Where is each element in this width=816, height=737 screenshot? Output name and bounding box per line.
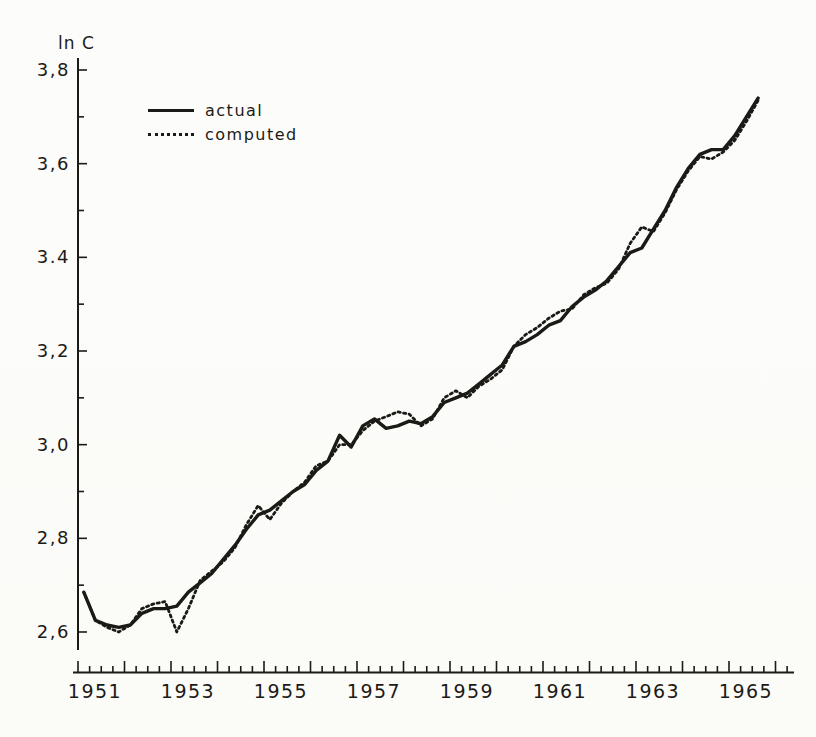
y-tick-label: 2,6 <box>37 621 70 642</box>
computed-line <box>84 100 758 632</box>
x-tick-label: 1957 <box>347 680 401 702</box>
x-tick-label: 1963 <box>626 680 680 702</box>
y-tick-label: 3,0 <box>37 434 70 455</box>
legend-item-computed: computed <box>148 125 298 144</box>
x-tick-label: 1961 <box>533 680 587 702</box>
x-tick-label: 1959 <box>440 680 494 702</box>
actual-line <box>84 98 758 627</box>
x-tick-label: 1951 <box>68 680 122 702</box>
y-tick-label: 3,2 <box>37 340 70 361</box>
legend-label-actual: actual <box>205 101 263 120</box>
figure: ln C 2,62,83,03,23.43,63,819511953195519… <box>0 0 816 737</box>
y-tick-label: 3,8 <box>37 59 70 80</box>
dotted-line-icon <box>148 133 194 136</box>
legend-item-actual: actual <box>148 101 298 120</box>
x-tick-label: 1965 <box>719 680 773 702</box>
legend-label-computed: computed <box>205 125 298 144</box>
x-tick-label: 1953 <box>161 680 215 702</box>
solid-line-icon <box>148 109 194 112</box>
y-tick-label: 3.4 <box>37 246 70 267</box>
y-tick-label: 2,8 <box>37 527 70 548</box>
legend: actual computed <box>148 101 298 144</box>
chart-canvas: 2,62,83,03,23.43,63,81951195319551957195… <box>0 0 816 737</box>
x-tick-label: 1955 <box>254 680 308 702</box>
y-tick-label: 3,6 <box>37 153 70 174</box>
